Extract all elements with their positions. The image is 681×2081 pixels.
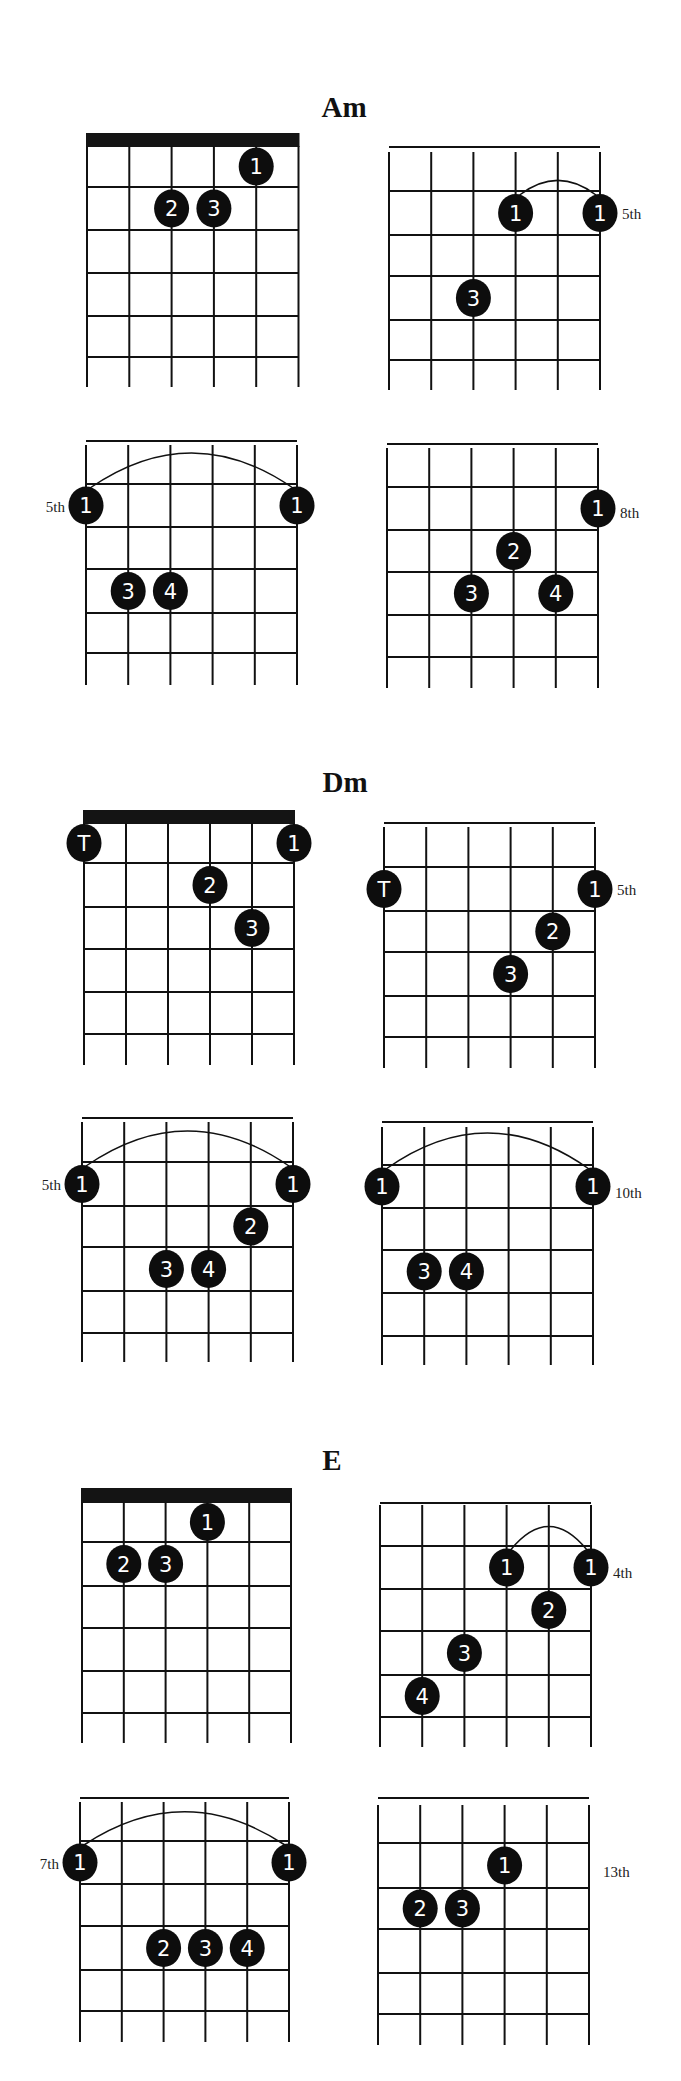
finger-dot: 2 [233, 1208, 268, 1246]
finger-number: T [77, 832, 91, 856]
finger-number: 2 [414, 1897, 427, 1921]
finger-dot: 1 [578, 870, 613, 908]
chord-diagram-am-4: 12348th [387, 444, 640, 688]
finger-number: 4 [549, 582, 562, 606]
finger-number: 3 [467, 287, 480, 311]
finger-dot: 3 [148, 1545, 183, 1583]
finger-dot: 1 [276, 1165, 311, 1203]
finger-number: 3 [418, 1260, 431, 1284]
finger-number: 3 [159, 1553, 172, 1577]
finger-dot: 3 [196, 190, 231, 228]
chord-title: Dm [322, 766, 367, 798]
nut-bar [81, 1488, 292, 1503]
chord-diagram-am-1: 123 [86, 133, 300, 387]
finger-dot: 3 [149, 1250, 184, 1288]
finger-number: 2 [507, 540, 520, 564]
finger-number: 3 [465, 582, 478, 606]
chord-section-dm: DmT123T1235th112345th113410th [42, 766, 642, 1365]
finger-dot: 1 [69, 487, 104, 525]
barre-arc [90, 453, 293, 488]
finger-number: 1 [593, 202, 606, 226]
finger-dot: 1 [487, 1847, 522, 1885]
finger-dot: 1 [583, 194, 618, 232]
finger-number: 4 [241, 1937, 254, 1961]
finger-number: 4 [416, 1685, 429, 1709]
fret-position-label: 5th [42, 1177, 62, 1193]
finger-number: 4 [460, 1260, 473, 1284]
finger-dot: 2 [496, 532, 531, 570]
finger-number: 3 [504, 963, 517, 987]
fret-position-label: 5th [622, 206, 642, 222]
finger-number: 1 [287, 832, 300, 856]
finger-dot: 2 [146, 1929, 181, 1967]
finger-dot: 1 [280, 487, 315, 525]
chord-diagram-e-1: 123 [81, 1488, 292, 1743]
finger-dot: 3 [235, 909, 270, 947]
chord-section-am: Am1231135th11345th12348th [46, 91, 642, 688]
finger-dot: 2 [535, 913, 570, 951]
finger-dot: 1 [65, 1165, 100, 1203]
barre-arc [86, 1131, 289, 1166]
finger-number: 1 [500, 1556, 513, 1580]
chord-diagram-am-3: 11345th [46, 441, 315, 685]
finger-number: 3 [245, 917, 258, 941]
finger-dot: 4 [153, 572, 188, 610]
nut-bar [83, 810, 295, 824]
finger-dot: 3 [445, 1890, 480, 1928]
finger-dot: 1 [190, 1503, 225, 1541]
chord-diagram-am-2: 1135th [389, 147, 642, 390]
finger-number: 1 [586, 1175, 599, 1199]
finger-number: 1 [591, 497, 604, 521]
finger-dot: 4 [538, 575, 573, 613]
finger-number: 4 [164, 580, 177, 604]
finger-dot: 3 [454, 575, 489, 613]
finger-dot: 1 [574, 1549, 609, 1587]
finger-number: 3 [456, 1897, 469, 1921]
finger-number: 1 [584, 1556, 597, 1580]
finger-dot: 4 [449, 1253, 484, 1291]
finger-number: 2 [165, 197, 178, 221]
finger-number: 1 [588, 878, 601, 902]
finger-dot: 2 [403, 1890, 438, 1928]
finger-dot: T [67, 824, 102, 862]
finger-dot: 3 [188, 1929, 223, 1967]
chord-diagram-dm-4: 113410th [365, 1122, 643, 1365]
chord-diagram-dm-1: T123 [67, 810, 312, 1065]
chord-title: Am [321, 91, 366, 123]
finger-number: 1 [290, 494, 303, 518]
chord-diagram-dm-2: T1235th [367, 823, 637, 1068]
finger-dot: 2 [193, 866, 228, 904]
finger-number: T [377, 878, 391, 902]
finger-number: 1 [286, 1173, 299, 1197]
finger-dot: 1 [576, 1168, 611, 1206]
fret-position-label: 5th [46, 499, 66, 515]
chord-diagram-e-2: 112344th [380, 1503, 633, 1747]
finger-number: 3 [207, 197, 220, 221]
fret-position-label: 13th [603, 1864, 630, 1880]
finger-number: 1 [73, 1851, 86, 1875]
chord-diagram-dm-3: 112345th [42, 1118, 311, 1362]
finger-number: 1 [201, 1511, 214, 1535]
finger-number: 1 [79, 494, 92, 518]
finger-number: 3 [122, 580, 135, 604]
chord-diagram-e-3: 112347th [40, 1798, 307, 2042]
finger-dot: 4 [191, 1250, 226, 1288]
finger-dot: 4 [405, 1677, 440, 1715]
finger-dot: 1 [581, 490, 616, 528]
finger-number: 2 [542, 1599, 555, 1623]
finger-number: 2 [157, 1937, 170, 1961]
finger-number: 1 [250, 155, 263, 179]
finger-dot: 3 [407, 1253, 442, 1291]
finger-dot: 2 [106, 1545, 141, 1583]
finger-number: 3 [160, 1258, 173, 1282]
finger-dot: 3 [456, 279, 491, 317]
fret-position-label: 4th [613, 1565, 633, 1581]
chord-section-e: E123112344th112347th12313th [40, 1444, 633, 2045]
finger-number: 1 [282, 1851, 295, 1875]
finger-number: 1 [498, 1854, 511, 1878]
finger-number: 2 [546, 920, 559, 944]
fret-position-label: 10th [615, 1185, 642, 1201]
finger-number: 2 [117, 1553, 130, 1577]
finger-number: 1 [375, 1175, 388, 1199]
finger-number: 3 [458, 1642, 471, 1666]
